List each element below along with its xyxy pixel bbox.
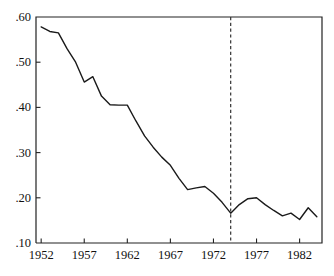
y-tick-label: .40 bbox=[0, 101, 31, 114]
x-tick-label: 1957 bbox=[60, 249, 108, 262]
x-tick-label: 1972 bbox=[189, 249, 237, 262]
chart-figure: .60.50.40.30.20.10 195219571962196719721… bbox=[0, 0, 334, 276]
plot-frame-border bbox=[36, 17, 322, 243]
x-tick-label: 1977 bbox=[233, 249, 281, 262]
x-tick-marks bbox=[41, 239, 299, 244]
x-tick-label: 1982 bbox=[276, 249, 324, 262]
y-tick-marks bbox=[36, 62, 41, 198]
plot-frame bbox=[36, 17, 322, 243]
series-line-series-1 bbox=[41, 27, 317, 220]
y-tick-label: .30 bbox=[0, 147, 31, 160]
y-tick-label: .60 bbox=[0, 11, 31, 24]
data-series-layer bbox=[41, 27, 317, 220]
x-tick-label: 1967 bbox=[146, 249, 194, 262]
x-tick-label: 1952 bbox=[17, 249, 65, 262]
y-tick-label: .20 bbox=[0, 192, 31, 205]
line-chart-canvas bbox=[0, 0, 334, 276]
y-tick-label: .50 bbox=[0, 56, 31, 69]
y-tick-label: .10 bbox=[0, 237, 31, 250]
x-tick-label: 1962 bbox=[103, 249, 151, 262]
